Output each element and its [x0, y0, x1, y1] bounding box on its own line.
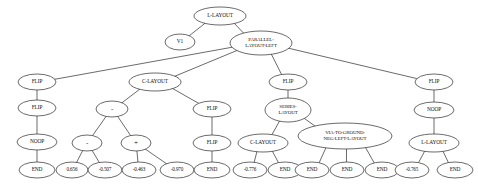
node-outline	[230, 31, 292, 55]
node-outline	[193, 101, 231, 117]
tree-node[interactable]: END	[295, 162, 329, 178]
tree-node[interactable]: END	[19, 162, 55, 178]
tree-node[interactable]: -	[96, 101, 128, 117]
node-outline	[233, 162, 267, 178]
node-outline	[269, 74, 307, 90]
tree-edge	[254, 151, 257, 163]
tree-edge	[92, 115, 107, 136]
node-outline	[415, 74, 453, 90]
tree-node[interactable]: C-LAYOUT	[238, 134, 288, 152]
node-outline	[194, 7, 246, 25]
tree-node[interactable]: FLIP	[269, 74, 307, 90]
tree-node[interactable]: END	[194, 162, 230, 178]
tree-edge	[137, 151, 138, 162]
node-outline	[414, 102, 454, 118]
node-outline	[298, 123, 392, 149]
node-outline	[96, 101, 128, 117]
tree-edge	[418, 150, 425, 164]
tree-edge	[271, 120, 280, 136]
node-outline	[395, 162, 429, 178]
node-outline	[165, 34, 195, 50]
tree-node[interactable]: FLIP	[18, 100, 56, 116]
node-outline	[265, 98, 311, 122]
tree-node[interactable]: END	[365, 162, 399, 178]
node-outline	[18, 74, 56, 90]
tree-node[interactable]: -0.970	[160, 162, 194, 178]
tree-node[interactable]: NOOP	[17, 134, 57, 150]
node-outline	[238, 134, 288, 152]
node-outline	[160, 162, 194, 178]
tree-diagram-canvas: L-LAYOUTV1PARALLEL-LAYOUT-LEFTFLIPFLIPNO…	[0, 0, 478, 184]
tree-node[interactable]: C-LAYOUT	[129, 73, 181, 91]
tree-node[interactable]: -0.463	[122, 162, 156, 178]
tree-edge	[278, 46, 424, 81]
tree-node[interactable]: L-LAYOUT	[194, 7, 246, 25]
node-outline	[194, 162, 230, 178]
tree-node[interactable]: FLIP	[18, 74, 56, 90]
node-outline	[18, 100, 56, 116]
node-outline	[295, 162, 329, 178]
tree-node[interactable]: 0.656	[56, 162, 88, 178]
tree-node[interactable]: PARALLEL-LAYOUT-LEFT	[230, 31, 292, 55]
tree-diagram-svg: L-LAYOUTV1PARALLEL-LAYOUT-LEFTFLIPFLIPNO…	[0, 0, 478, 184]
tree-edge	[117, 116, 131, 137]
node-outline	[129, 73, 181, 91]
node-outline	[88, 162, 122, 178]
node-outline	[409, 134, 459, 152]
node-outline	[330, 162, 364, 178]
tree-node[interactable]: -0.765	[395, 162, 429, 178]
tree-node[interactable]: -0.776	[233, 162, 267, 178]
node-outline	[72, 135, 102, 151]
tree-edge	[92, 150, 100, 164]
tree-node[interactable]: -0.507	[88, 162, 122, 178]
tree-node[interactable]: NOOP	[414, 102, 454, 118]
tree-node[interactable]: END	[437, 162, 473, 178]
tree-node[interactable]: V1	[165, 34, 195, 50]
tree-edge	[272, 150, 279, 164]
tree-node[interactable]: FLIP	[193, 135, 231, 151]
node-outline	[121, 135, 151, 151]
tree-node[interactable]: END	[330, 162, 364, 178]
node-layer: L-LAYOUTV1PARALLEL-LAYOUT-LEFTFLIPFLIPNO…	[17, 7, 473, 178]
tree-node[interactable]: L-LAYOUT	[409, 134, 459, 152]
tree-edge	[271, 53, 282, 76]
tree-node[interactable]: SERIES-LAYOUT	[265, 98, 311, 122]
node-outline	[365, 162, 399, 178]
node-outline	[56, 162, 88, 178]
tree-node[interactable]: FLIP	[193, 101, 231, 117]
tree-node[interactable]: +	[121, 135, 151, 151]
node-outline	[193, 135, 231, 151]
node-outline	[437, 162, 473, 178]
tree-node[interactable]: FLIP	[415, 74, 453, 90]
tree-node[interactable]: VIA-TO-GROUND-NEG-LEFT-LAYOUT	[298, 123, 392, 149]
tree-edge	[76, 150, 83, 163]
node-outline	[122, 162, 156, 178]
node-outline	[19, 162, 55, 178]
tree-edge	[442, 150, 448, 164]
node-outline	[17, 134, 57, 150]
tree-node[interactable]: -	[72, 135, 102, 151]
